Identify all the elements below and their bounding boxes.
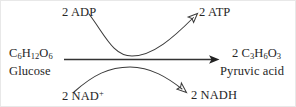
substrate-formula-label: C6H12O6 [9,47,53,60]
product-o-subscript: 3 [277,51,281,61]
atp-output-label: 2 ATP [199,6,230,19]
adp-input-label: 2 ADP [62,6,96,19]
substrate-name-label: Glucose [9,65,51,78]
glycolysis-diagram: C6H12O6 Glucose 2 C3H6O3 Pyruvic acid 2 … [0,0,296,107]
nad-plus-superscript: + [99,88,104,98]
adp-to-atp-curve [89,14,198,57]
substrate-o-subscript: 6 [48,51,52,61]
nadh-output-label: 2 NADH [191,89,237,102]
product-formula-label: 2 C3H6O3 [232,47,281,60]
nad-input-label: 2 NAD+ [62,89,104,102]
adp-atp-curve-path [89,14,194,56]
nadh-open-arrowhead [177,83,187,93]
product-name-label: Pyruvic acid [220,65,284,78]
main-reaction-arrow [64,55,220,64]
